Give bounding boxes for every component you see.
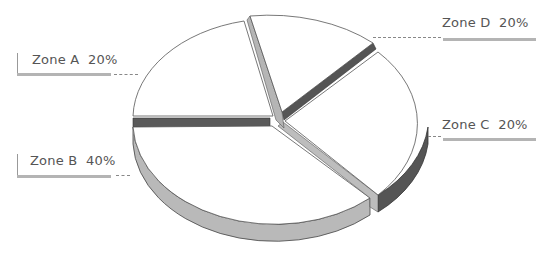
label-zone-b-leader: [116, 175, 130, 176]
label-zone-d-bar: [443, 38, 536, 41]
label-zone-d-text: Zone D 20%: [442, 15, 529, 30]
label-zone-c-text: Zone C 20%: [442, 117, 528, 132]
label-zone-d-leader: [373, 37, 441, 38]
label-zone-c-bar: [443, 138, 536, 141]
label-zone-b-bar: [17, 175, 111, 178]
label-zone-a-text: Zone A 20%: [32, 52, 117, 67]
label-zone-a-tick: [17, 53, 18, 75]
slice-zone-b-cut-face: [133, 118, 270, 127]
label-zone-c-leader: [428, 136, 441, 137]
label-zone-a-bar: [17, 73, 111, 76]
label-zone-b-tick: [17, 154, 18, 177]
label-zone-b-text: Zone B 40%: [30, 153, 116, 168]
label-zone-a-leader: [114, 74, 138, 75]
